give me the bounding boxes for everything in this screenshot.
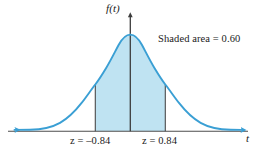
y-axis-label: f(t) [106,3,120,14]
normal-curve-figure: f(t) Shaded area = 0.60 z = –0.84 z = 0.… [0,0,254,156]
x-axis-label: t [246,133,249,144]
y-axis-arrow-icon [128,12,133,17]
tick-label-z-upper: z = 0.84 [142,136,177,147]
tick-label-z-lower: z = –0.84 [70,136,110,147]
shaded-area-annotation: Shaded area = 0.60 [158,34,240,45]
distribution-plot [0,0,254,156]
